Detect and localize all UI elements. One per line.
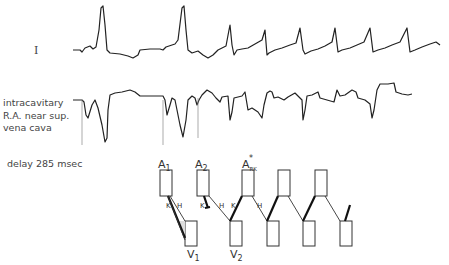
ladder-diagram: A1 A2 ARK * K H K H K H V1 V2	[158, 154, 352, 263]
ventricular-box-V4	[303, 221, 315, 246]
atrial-box-A5	[315, 170, 327, 196]
label-K-1: K	[166, 202, 171, 210]
label-H-1: H	[177, 202, 182, 210]
label-V1: V1	[187, 248, 200, 263]
atrial-box-A4	[278, 170, 290, 196]
atrial-box-A3	[242, 170, 254, 196]
atrial-box-A1	[160, 170, 172, 196]
label-K-2: K	[200, 202, 205, 210]
label-A1: A1	[158, 158, 171, 173]
ecg-figure: A1 A2 ARK * K H K H K H V1 V2	[0, 0, 449, 265]
ventricular-box-V1	[185, 221, 197, 246]
intracavitary-trace	[73, 83, 412, 142]
label-H-2: H	[219, 202, 224, 210]
atrial-box-A2	[197, 170, 209, 196]
label-V2: V2	[230, 248, 243, 263]
ventricular-box-V3	[267, 221, 279, 246]
label-K-3: K	[231, 202, 236, 210]
ventricular-box-V2	[230, 221, 242, 246]
lead-I-trace	[73, 6, 440, 58]
label-H-3: H	[257, 202, 262, 210]
ventricular-box-V5	[340, 221, 352, 246]
label-A2: A2	[195, 158, 208, 173]
label-A-RK-star: *	[249, 154, 253, 163]
